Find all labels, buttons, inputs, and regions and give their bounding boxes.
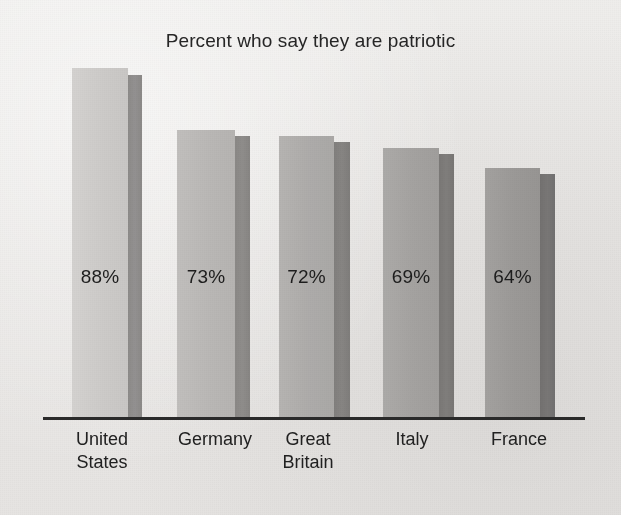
bar-group-germany: 73%: [177, 130, 250, 419]
chart-container: Percent who say they are patriotic 88% 7…: [0, 0, 621, 515]
bar-face-united-states: [72, 68, 128, 419]
bar-value-united-states: 88%: [72, 266, 128, 288]
plot-area: 88% 73% 72% 69% 64% United States Ge: [0, 0, 621, 515]
bar-side-germany: [235, 136, 250, 419]
bar-value-france: 64%: [485, 266, 540, 288]
bar-side-italy: [439, 154, 454, 419]
bar-side-france: [540, 174, 555, 419]
bar-face-france: [485, 168, 540, 419]
bar-side-united-states: [128, 75, 142, 419]
category-label-france: France: [475, 428, 563, 451]
category-label-great-britain: Great Britain: [272, 428, 344, 474]
bar-side-great-britain: [334, 142, 350, 419]
bar-group-united-states: 88%: [72, 68, 142, 419]
bar-value-germany: 73%: [177, 266, 235, 288]
bar-group-great-britain: 72%: [279, 136, 350, 419]
bar-value-great-britain: 72%: [279, 266, 334, 288]
bar-value-italy: 69%: [383, 266, 439, 288]
category-label-italy: Italy: [376, 428, 448, 451]
category-label-united-states: United States: [62, 428, 142, 474]
bar-group-italy: 69%: [383, 148, 454, 419]
x-axis-line: [43, 417, 585, 420]
category-label-germany: Germany: [160, 428, 270, 451]
bar-group-france: 64%: [485, 168, 555, 419]
